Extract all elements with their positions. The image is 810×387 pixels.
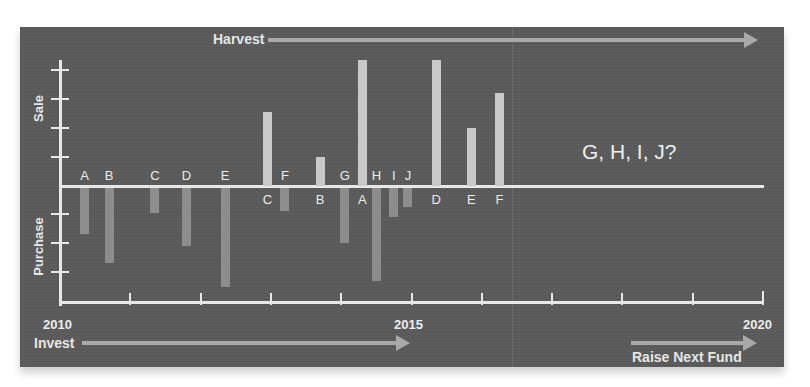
- x-tick: [59, 291, 61, 305]
- year-label-2010: 2010: [43, 317, 72, 332]
- purchase-label-b: B: [101, 169, 117, 182]
- year-label-2015: 2015: [394, 317, 423, 332]
- purchase-label-f: F: [277, 169, 293, 182]
- sale-bar-a: [358, 60, 367, 186]
- y-label-purchase: Purchase: [31, 207, 46, 287]
- harvest-arrow-head-icon: [744, 32, 758, 48]
- purchase-bar-h: [372, 188, 381, 281]
- x-tick: [270, 293, 272, 305]
- x-tick: [692, 293, 694, 305]
- sale-label-b: B: [312, 193, 328, 206]
- purchase-bar-g: [340, 188, 349, 243]
- y-tick: [51, 98, 69, 100]
- y-label-sale: Sale: [31, 89, 46, 129]
- sale-label-c: C: [259, 193, 275, 206]
- scan-crease: [512, 27, 513, 367]
- purchase-label-j: J: [400, 169, 416, 182]
- x-tick: [340, 293, 342, 305]
- x-tick: [481, 293, 483, 305]
- x-tick: [411, 293, 413, 305]
- paper-grain: [20, 27, 784, 367]
- year-label-2020: 2020: [743, 317, 772, 332]
- raise-fund-arrow-head-icon: [743, 335, 757, 351]
- y-tick: [51, 271, 69, 273]
- invest-arrow-head-icon: [396, 335, 410, 351]
- pending-exits-annotation: G, H, I, J?: [582, 140, 677, 164]
- zero-baseline: [61, 185, 764, 188]
- y-tick: [51, 69, 69, 71]
- invest-label: Invest: [34, 335, 74, 351]
- purchase-bar-f: [280, 188, 289, 211]
- purchase-bar-j: [403, 188, 412, 207]
- purchase-bar-e: [221, 188, 230, 287]
- sale-bar-e: [467, 128, 476, 186]
- invest-arrow-line: [82, 341, 398, 345]
- x-tick: [621, 293, 623, 305]
- raise-next-fund-label: Raise Next Fund: [632, 349, 742, 365]
- purchase-bar-a: [80, 188, 89, 234]
- y-axis: [59, 60, 62, 306]
- sale-bar-c: [263, 112, 272, 186]
- purchase-label-e: E: [217, 169, 233, 182]
- x-tick: [762, 291, 764, 305]
- x-tick: [551, 293, 553, 305]
- chart-panel: Harvest Sale Purchase 2010 2015 2020 Inv…: [20, 27, 784, 367]
- purchase-label-d: D: [179, 169, 195, 182]
- purchase-label-g: G: [337, 169, 353, 182]
- sale-bar-b: [316, 157, 325, 186]
- sale-label-a: A: [354, 193, 370, 206]
- purchase-label-h: H: [368, 169, 384, 182]
- sale-label-e: E: [463, 193, 479, 206]
- sale-bar-f: [495, 93, 504, 186]
- purchase-label-c: C: [147, 169, 163, 182]
- y-tick: [51, 127, 69, 129]
- x-tick: [200, 293, 202, 305]
- x-tick: [129, 293, 131, 305]
- purchase-bar-b: [105, 188, 114, 263]
- harvest-label: Harvest: [213, 31, 264, 47]
- harvest-arrow-line: [268, 38, 746, 42]
- sale-label-d: D: [428, 193, 444, 206]
- sale-bar-d: [432, 60, 441, 186]
- y-tick: [51, 156, 69, 158]
- purchase-bar-i: [389, 188, 398, 217]
- y-tick: [51, 242, 69, 244]
- purchase-label-a: A: [77, 169, 93, 182]
- sale-label-f: F: [491, 193, 507, 206]
- purchase-bar-c: [150, 188, 159, 213]
- raise-fund-arrow-line: [631, 341, 745, 345]
- y-tick: [51, 213, 69, 215]
- purchase-bar-d: [182, 188, 191, 246]
